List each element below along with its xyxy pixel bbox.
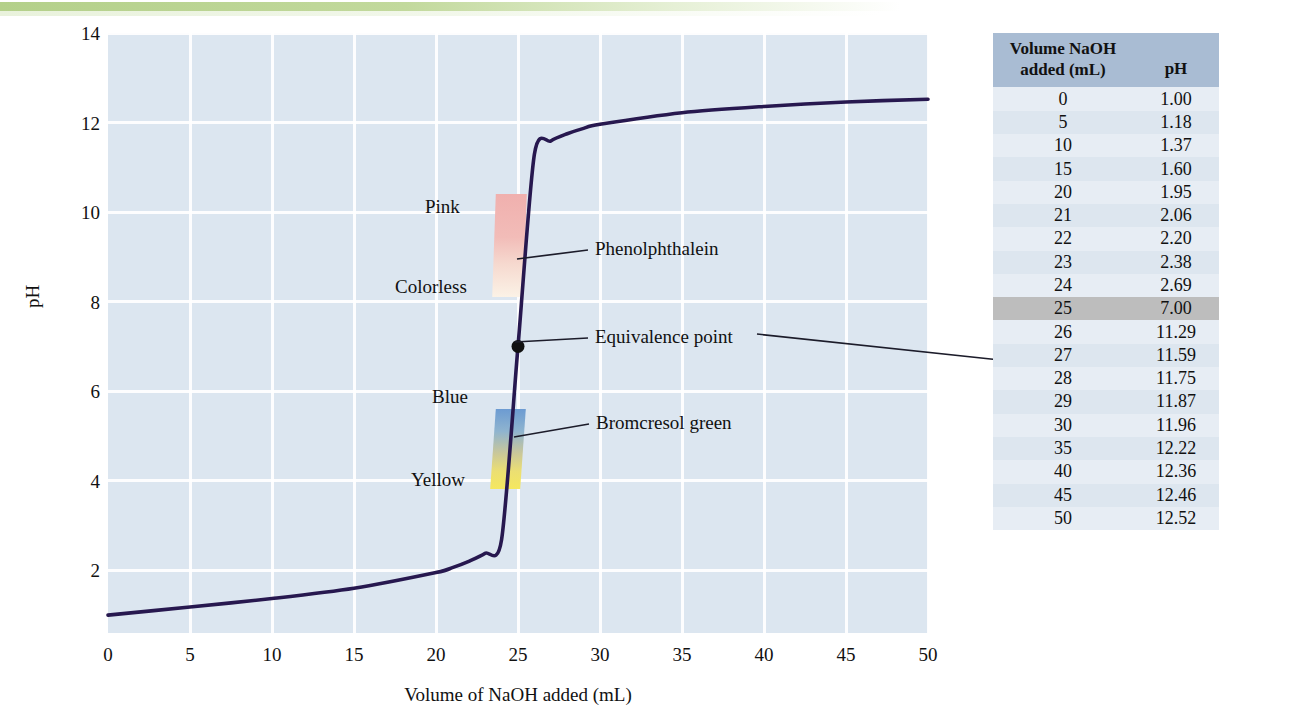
cell-volume: 20 (993, 182, 1133, 203)
gridline-horizontal (108, 569, 928, 572)
table-row: 51.18 (993, 111, 1219, 134)
y-tick-label: 6 (14, 382, 100, 401)
bromcresol-yellow-label: Yellow (411, 469, 465, 491)
cell-ph: 2.69 (1133, 275, 1219, 296)
cell-volume: 25 (993, 298, 1133, 319)
x-tick-label: 5 (160, 645, 220, 664)
phenolphthalein-pink-label: Pink (425, 196, 460, 218)
table-body: 01.0051.18101.37151.60201.95212.06222.20… (993, 87, 1219, 530)
table-row: 3512.22 (993, 437, 1219, 460)
phenolphthalein-callout-label: Phenolphthalein (595, 238, 718, 260)
cell-volume: 28 (993, 368, 1133, 389)
y-axis-tick-labels: 2468101214 (0, 33, 100, 633)
table-row: 222.20 (993, 227, 1219, 250)
bromcresol-green-indicator-band (490, 409, 526, 489)
gridline-horizontal (108, 300, 928, 303)
gridline-horizontal (108, 390, 928, 393)
cell-volume: 24 (993, 275, 1133, 296)
cell-ph: 11.87 (1133, 391, 1219, 412)
table-row: 232.38 (993, 251, 1219, 274)
x-tick-label: 40 (734, 645, 794, 664)
table-row: 101.37 (993, 134, 1219, 157)
bromcresol-blue-label: Blue (432, 386, 468, 408)
table-row: 257.00 (993, 297, 1219, 320)
cell-ph: 1.00 (1133, 89, 1219, 110)
y-tick-label: 10 (14, 203, 100, 222)
cell-ph: 11.29 (1133, 322, 1219, 343)
cell-ph: 12.52 (1133, 508, 1219, 529)
cell-ph: 12.36 (1133, 461, 1219, 482)
cell-volume: 29 (993, 391, 1133, 412)
column-header-ph: pH (1133, 59, 1219, 80)
table-row: 01.00 (993, 87, 1219, 110)
cell-volume: 50 (993, 508, 1133, 529)
cell-volume: 10 (993, 135, 1133, 156)
cell-ph: 11.75 (1133, 368, 1219, 389)
cell-ph: 7.00 (1133, 298, 1219, 319)
x-tick-label: 0 (78, 645, 138, 664)
cell-ph: 2.20 (1133, 228, 1219, 249)
table-row: 212.06 (993, 204, 1219, 227)
cell-ph: 11.96 (1133, 415, 1219, 436)
cell-ph: 11.59 (1133, 345, 1219, 366)
cell-volume: 23 (993, 252, 1133, 273)
column-header-volume-line2: added (mL) (993, 60, 1133, 81)
gridline-horizontal (108, 121, 928, 124)
cell-volume: 26 (993, 322, 1133, 343)
table-row: 201.95 (993, 181, 1219, 204)
phenolphthalein-colorless-label: Colorless (395, 276, 467, 298)
cell-volume: 22 (993, 228, 1133, 249)
table-row: 2611.29 (993, 320, 1219, 343)
cell-ph: 12.46 (1133, 485, 1219, 506)
column-header-volume-line1: Volume NaOH (993, 39, 1133, 60)
cell-ph: 2.06 (1133, 205, 1219, 226)
x-tick-label: 35 (652, 645, 712, 664)
decorative-top-band (0, 2, 900, 11)
x-tick-label: 45 (816, 645, 876, 664)
cell-volume: 40 (993, 461, 1133, 482)
table-row: 2711.59 (993, 344, 1219, 367)
y-tick-label: 4 (14, 472, 100, 491)
cell-volume: 5 (993, 112, 1133, 133)
x-tick-label: 15 (324, 645, 384, 664)
cell-volume: 21 (993, 205, 1133, 226)
cell-volume: 15 (993, 159, 1133, 180)
table-row: 5012.52 (993, 507, 1219, 530)
grid-lines (108, 33, 928, 633)
cell-volume: 27 (993, 345, 1133, 366)
cell-ph: 12.22 (1133, 438, 1219, 459)
y-tick-label: 14 (14, 24, 100, 43)
table-header: Volume NaOH added (mL) pH (993, 33, 1219, 87)
x-axis-tick-labels: 05101520253035404550 (108, 645, 928, 671)
y-tick-label: 2 (14, 561, 100, 580)
y-axis-title: pH (22, 285, 44, 308)
table-row: 151.60 (993, 157, 1219, 180)
x-tick-label: 25 (488, 645, 548, 664)
bromcresol-green-callout-label: Bromcresol green (596, 412, 732, 434)
table-row: 3011.96 (993, 414, 1219, 437)
equivalence-point-callout-label: Equivalence point (595, 326, 733, 348)
titration-data-table: Volume NaOH added (mL) pH 01.0051.18101.… (993, 33, 1219, 530)
cell-volume: 30 (993, 415, 1133, 436)
y-tick-label: 12 (14, 114, 100, 133)
cell-ph: 2.38 (1133, 252, 1219, 273)
cell-ph: 1.60 (1133, 159, 1219, 180)
table-row: 2811.75 (993, 367, 1219, 390)
x-tick-label: 50 (898, 645, 958, 664)
column-header-volume: Volume NaOH added (mL) (993, 39, 1133, 80)
gridline-horizontal (108, 32, 928, 35)
cell-ph: 1.95 (1133, 182, 1219, 203)
table-row: 2911.87 (993, 390, 1219, 413)
table-row: 4012.36 (993, 460, 1219, 483)
table-row: 4512.46 (993, 484, 1219, 507)
decorative-top-band-shadow (0, 11, 880, 16)
cell-ph: 1.18 (1133, 112, 1219, 133)
table-row: 242.69 (993, 274, 1219, 297)
cell-volume: 45 (993, 485, 1133, 506)
cell-volume: 0 (993, 89, 1133, 110)
x-axis-title: Volume of NaOH added (mL) (108, 684, 928, 706)
x-tick-label: 10 (242, 645, 302, 664)
cell-volume: 35 (993, 438, 1133, 459)
titration-plot-area (108, 33, 928, 633)
phenolphthalein-indicator-band (492, 194, 527, 297)
